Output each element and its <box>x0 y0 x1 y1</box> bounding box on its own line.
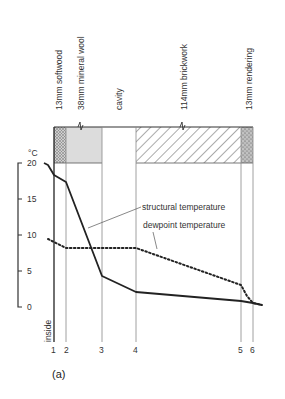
y-axis: °C 20 15 10 5 0 <box>18 148 38 312</box>
wall-section-band <box>54 122 253 163</box>
y-tick-0: 0 <box>27 302 32 312</box>
boundary-3: 3 <box>99 345 104 355</box>
layer-label-mineral-wool: 38mm mineral wool <box>76 36 86 110</box>
wall-temperature-diagram: 13mm softwood 38mm mineral wool cavity 1… <box>0 0 285 399</box>
dewpoint-temperature-line <box>48 239 262 305</box>
y-tick-15: 15 <box>27 194 37 204</box>
structural-temperature-line <box>44 163 262 305</box>
structural-pointer <box>88 207 141 228</box>
layer-labels: 13mm softwood 38mm mineral wool cavity 1… <box>54 36 254 110</box>
layer-label-rendering: 13mm rendering <box>244 48 254 110</box>
boundary-5: 5 <box>238 345 243 355</box>
boundary-numbers: 1 2 3 4 5 6 <box>51 345 255 355</box>
figure-caption: (a) <box>52 368 65 380</box>
dewpoint-pointer <box>153 232 157 249</box>
cavity-layer <box>102 127 136 163</box>
layer-label-softwood: 13mm softwood <box>54 50 64 110</box>
softwood-layer <box>54 127 66 163</box>
boundary-6: 6 <box>250 345 255 355</box>
y-axis-unit: °C <box>28 148 38 158</box>
boundary-2: 2 <box>64 345 69 355</box>
structural-temperature-label: structural temperature <box>142 202 225 212</box>
brickwork-layer <box>136 127 241 163</box>
y-tick-20: 20 <box>27 158 37 168</box>
rendering-layer <box>241 127 253 163</box>
dewpoint-temperature-label: dewpoint temperature <box>143 220 225 230</box>
y-tick-5: 5 <box>27 266 32 276</box>
boundary-1: 1 <box>51 345 56 355</box>
layer-label-cavity: cavity <box>114 88 124 110</box>
y-tick-10: 10 <box>27 230 37 240</box>
boundary-4: 4 <box>133 345 138 355</box>
annotations: structural temperature dewpoint temperat… <box>88 202 225 249</box>
layer-label-brickwork: 114mm brickwork <box>179 43 189 110</box>
mineral-wool-layer <box>66 127 102 163</box>
inside-label: inside <box>43 320 53 342</box>
